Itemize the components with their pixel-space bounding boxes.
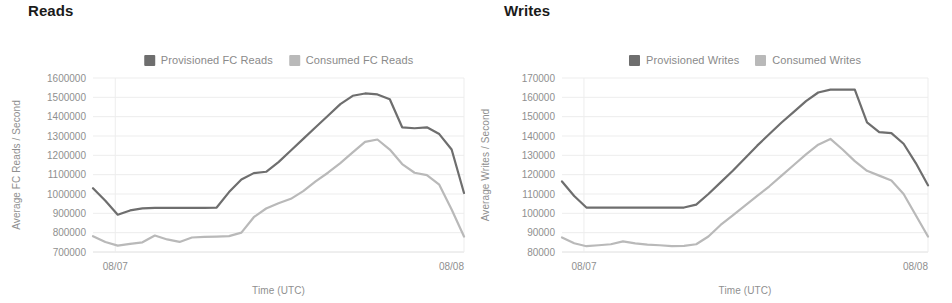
series-line-provisioned-writes (562, 90, 928, 208)
y-axis-tick-label: 100000 (522, 208, 556, 219)
y-axis-tick-label: 130000 (522, 150, 556, 161)
y-axis-tick-label: 120000 (522, 169, 556, 180)
series-line-provisioned-fc-reads (93, 93, 464, 214)
y-axis-tick-label: 1500000 (47, 92, 86, 103)
y-axis-tick-label: 1600000 (47, 73, 86, 84)
x-axis-title-reads: Time (UTC) (252, 285, 305, 296)
y-axis-tick-label: 800000 (53, 227, 87, 238)
x-axis-tick-label: 08/07 (571, 261, 596, 272)
y-axis-tick-label: 1300000 (47, 131, 86, 142)
line-chart-writes: 8000090000100000110000120000130000140000… (476, 0, 952, 303)
y-axis-tick-label: 1100000 (48, 169, 87, 180)
y-axis-tick-label: 140000 (522, 131, 556, 142)
line-chart-reads: 7000008000009000001000000110000012000001… (0, 0, 476, 303)
x-axis-tick-label: 08/07 (103, 261, 128, 272)
panel-reads: Reads Provisioned FC Reads Consumed FC R… (0, 0, 476, 303)
y-axis-title-reads: Average FC Reads / Second (11, 100, 22, 230)
plot-area-writes: 8000090000100000110000120000130000140000… (476, 0, 952, 303)
y-axis-tick-label: 150000 (522, 111, 556, 122)
y-axis-tick-label: 110000 (522, 189, 555, 200)
y-axis-tick-label: 1200000 (47, 150, 86, 161)
y-axis-tick-label: 170000 (522, 73, 556, 84)
x-axis-tick-label: 08/08 (903, 261, 928, 272)
y-axis-title-writes: Average Writes / Second (480, 109, 491, 222)
y-axis-tick-label: 700000 (53, 247, 87, 258)
y-axis-tick-label: 900000 (53, 208, 87, 219)
metrics-dashboard: Reads Provisioned FC Reads Consumed FC R… (0, 0, 952, 303)
plot-area-reads: 7000008000009000001000000110000012000001… (0, 0, 476, 303)
y-axis-tick-label: 1400000 (47, 111, 86, 122)
y-axis-tick-label: 160000 (522, 92, 556, 103)
y-axis-tick-label: 80000 (527, 247, 555, 258)
y-axis-tick-label: 1000000 (47, 189, 86, 200)
x-axis-tick-label: 08/08 (439, 261, 464, 272)
y-axis-tick-label: 90000 (527, 227, 555, 238)
x-axis-title-writes: Time (UTC) (719, 285, 772, 296)
panel-writes: Writes Provisioned Writes Consumed Write… (476, 0, 952, 303)
